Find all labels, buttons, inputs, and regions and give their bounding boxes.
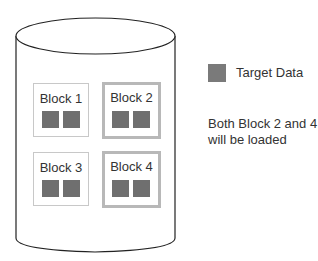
data-square	[63, 111, 80, 128]
block-label: Block 3	[34, 160, 88, 175]
data-square	[42, 111, 59, 128]
block-label: Block 1	[34, 91, 88, 106]
block-4: Block 4	[102, 151, 161, 208]
legend-swatch	[208, 64, 226, 82]
data-square	[112, 180, 129, 197]
block-label: Block 4	[105, 159, 158, 174]
legend-label: Target Data	[236, 65, 303, 80]
data-square	[63, 180, 80, 197]
data-square	[133, 111, 150, 128]
block-2: Block 2	[102, 82, 161, 139]
data-square	[133, 180, 150, 197]
block-3: Block 3	[33, 152, 89, 206]
data-square	[112, 111, 129, 128]
block-1: Block 1	[33, 83, 89, 137]
note-text: Both Block 2 and 4 will be loaded	[208, 116, 318, 148]
block-label: Block 2	[105, 90, 158, 105]
data-square	[42, 180, 59, 197]
